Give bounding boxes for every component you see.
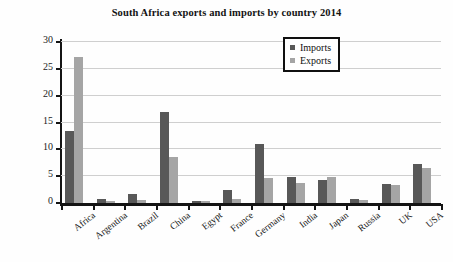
legend-swatch-icon [290, 58, 295, 63]
bar-imports-germany [255, 144, 264, 203]
bar-exports-india [296, 183, 305, 203]
bar-imports-usa [413, 164, 422, 203]
bar-imports-japan [318, 180, 327, 203]
x-tick-mark [93, 204, 95, 210]
chart-title: South Africa exports and imports by coun… [0, 7, 453, 18]
bar-exports-france [232, 199, 241, 203]
x-tick-mark [346, 204, 348, 210]
x-tick-mark [283, 204, 285, 210]
y-tick-label: 30 [43, 34, 53, 45]
x-axis-label-france: France [229, 210, 256, 234]
bar-group [346, 41, 378, 204]
y-tick-label: 20 [43, 88, 53, 99]
bar-exports-egypt [201, 201, 210, 203]
x-axis-label-uk: UK [397, 210, 414, 226]
x-tick-mark [441, 204, 443, 210]
bar-group [378, 41, 410, 204]
bar-group [188, 41, 220, 204]
bar-group [124, 41, 156, 204]
bar-chart: South Africa exports and imports by coun… [0, 0, 453, 262]
x-axis-label-argentina: Argentina [93, 210, 129, 241]
bar-imports-africa [65, 131, 74, 203]
y-tick-label: 0 [48, 195, 53, 206]
bar-imports-china [160, 112, 169, 203]
bar-group [61, 41, 93, 204]
bar-imports-india [287, 177, 296, 203]
plot-area: 051015202530 AfricaArgentinaBrazilChinaE… [61, 41, 441, 204]
bar-group [219, 41, 251, 204]
x-tick-mark [124, 204, 126, 210]
bar-exports-argentina [106, 201, 115, 203]
bar-imports-uk [382, 184, 391, 203]
legend-swatch-icon [290, 45, 295, 50]
y-tick-label: 25 [43, 61, 53, 72]
y-tick-label: 15 [43, 115, 53, 126]
x-tick-mark [156, 204, 158, 210]
bar-imports-egypt [192, 201, 201, 203]
legend-item-imports[interactable]: Imports [290, 41, 331, 54]
legend-label: Imports [300, 41, 331, 54]
x-axis-label-usa: USA [424, 210, 445, 230]
y-tick-label: 5 [48, 168, 53, 179]
bar-group [409, 41, 441, 204]
x-axis-label-brazil: Brazil [136, 210, 160, 232]
x-axis-label-india: India [297, 210, 319, 230]
x-tick-mark [251, 204, 253, 210]
bar-exports-china [169, 157, 178, 203]
bar-exports-russia [359, 200, 368, 203]
y-tick-label: 10 [43, 141, 53, 152]
x-tick-mark [61, 204, 63, 210]
bar-imports-brazil [128, 194, 137, 203]
x-axis-label-russia: Russia [356, 210, 382, 233]
bar-exports-africa [74, 57, 83, 204]
x-axis-label-germany: Germany [253, 210, 287, 240]
bar-exports-japan [327, 177, 336, 203]
x-tick-mark [409, 204, 411, 210]
bar-exports-germany [264, 178, 273, 203]
bar-group [251, 41, 283, 204]
bar-group [156, 41, 188, 204]
x-axis-label-japan: Japan [327, 210, 350, 231]
bar-imports-france [223, 190, 232, 203]
x-axis-label-egypt: Egypt [200, 210, 224, 232]
x-tick-mark [219, 204, 221, 210]
bar-imports-argentina [97, 199, 106, 203]
bar-exports-usa [422, 168, 431, 203]
x-axis-label-africa: Africa [72, 210, 97, 233]
chart-legend: ImportsExports [283, 37, 340, 72]
x-tick-mark [378, 204, 380, 210]
bar-imports-russia [350, 199, 359, 203]
x-tick-mark [314, 204, 316, 210]
bar-exports-brazil [137, 200, 146, 203]
bar-group [93, 41, 125, 204]
x-tick-mark [188, 204, 190, 210]
x-axis-label-china: China [168, 210, 192, 232]
legend-label: Exports [300, 54, 331, 67]
bar-exports-uk [391, 185, 400, 203]
legend-item-exports[interactable]: Exports [290, 54, 331, 67]
